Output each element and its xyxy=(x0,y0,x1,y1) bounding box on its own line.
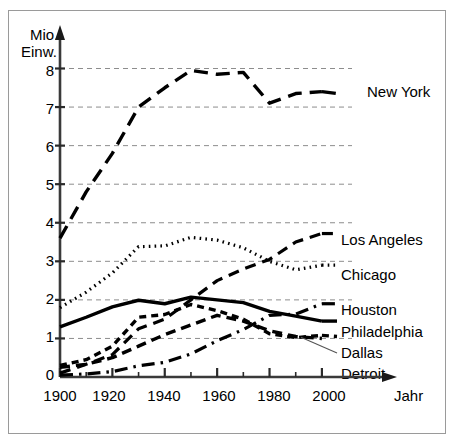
series-line-detroit xyxy=(60,315,322,367)
axes xyxy=(55,25,397,382)
series-label-connector xyxy=(322,92,337,94)
leader-lines xyxy=(301,337,337,353)
line-chart-canvas xyxy=(0,0,456,445)
series-line-new-york xyxy=(60,70,322,238)
series-label-connector xyxy=(322,335,337,336)
detroit-leader-line xyxy=(301,337,337,353)
